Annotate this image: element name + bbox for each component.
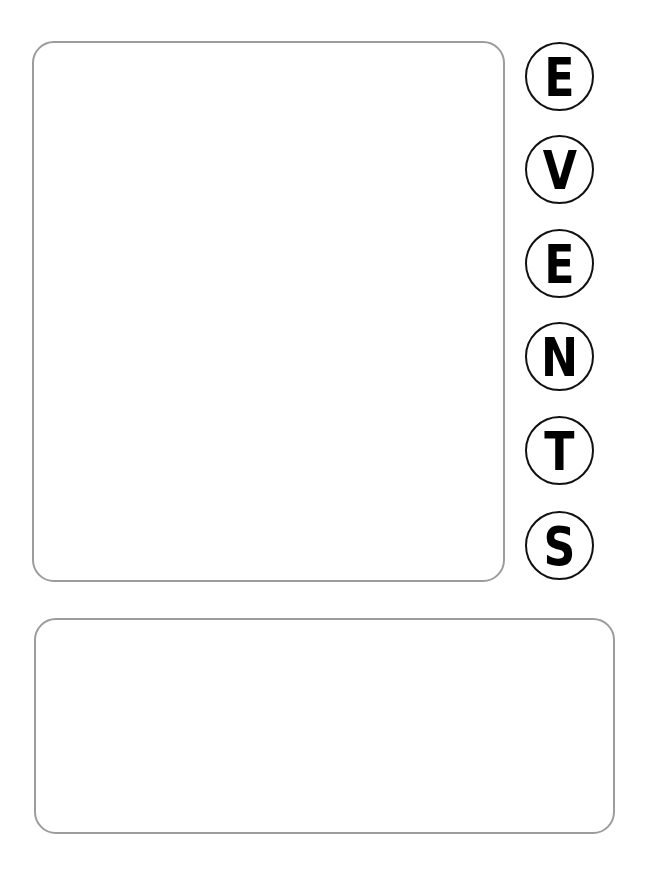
- letter-circle-e2: E: [525, 229, 594, 298]
- letter-circle-v: V: [525, 135, 594, 204]
- letter-circle-n: N: [525, 322, 594, 391]
- letter-e: E: [544, 51, 574, 105]
- letter-circle-e1: E: [525, 42, 594, 111]
- lower-content-panel: [34, 618, 615, 834]
- letter-circle-s: S: [525, 511, 594, 580]
- letter-e: E: [544, 238, 574, 292]
- letter-v: V: [542, 144, 576, 198]
- letter-s: S: [544, 520, 576, 574]
- upper-content-panel: [32, 41, 505, 582]
- letter-n: N: [541, 331, 578, 385]
- letter-t: T: [544, 425, 574, 479]
- letter-circle-t: T: [525, 416, 594, 485]
